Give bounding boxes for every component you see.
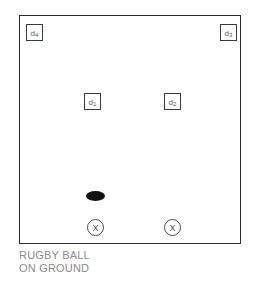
diagram-caption: RUGBY BALL ON GROUND [19,249,90,274]
marker-box-d2: d2 [164,93,181,110]
caption-line-1: RUGBY BALL [19,249,90,262]
marker-box-d4: d4 [26,24,43,41]
marker-label-d1: d1 [89,98,97,106]
player-marker-left: X [87,219,104,236]
marker-box-d3: d3 [220,24,237,41]
player-label-right: X [169,224,175,233]
marker-box-d1: d1 [84,93,101,110]
caption-line-2: ON GROUND [19,262,90,275]
marker-label-d2: d2 [169,98,177,106]
marker-label-d4: d4 [31,29,39,37]
rugby-ball-icon [86,191,105,201]
rugby-drill-diagram: d4 d3 d1 d2 X X RUGBY BALL ON GROUND [0,0,257,283]
marker-label-d3: d3 [225,29,233,37]
playing-area-frame [19,15,241,244]
player-marker-right: X [164,219,181,236]
player-label-left: X [92,224,98,233]
